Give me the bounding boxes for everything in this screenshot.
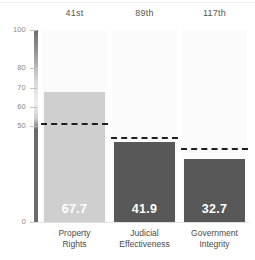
bar-judicial-effectiveness[interactable]: 41.9 (114, 142, 175, 222)
y-tick-mark-70 (30, 88, 37, 89)
category-label-government-integrity: Government Integrity (174, 228, 255, 249)
y-tick-label-80: 80 (0, 64, 26, 72)
y-tick-label-50: 50 (0, 122, 26, 130)
reference-line-judicial-effectiveness (111, 137, 178, 139)
bar-government-integrity[interactable]: 32.7 (184, 159, 245, 222)
y-tick-label-100: 100 (0, 26, 26, 34)
y-tick-mark-100 (30, 30, 37, 31)
bar-value-property-rights: 67.7 (44, 202, 105, 216)
bar-value-government-integrity: 32.7 (184, 202, 245, 216)
category-label-judicial-effectiveness: Judicial Effectiveness (104, 228, 185, 249)
plot-area: 100807060500 67.7 41.9 32.7 Property Rig… (0, 0, 255, 260)
y-tick-mark-60 (30, 107, 37, 108)
bar-property-rights[interactable]: 67.7 (44, 92, 105, 222)
y-tick-label-70: 70 (0, 84, 26, 92)
y-tick-label-0: 0 (0, 218, 26, 226)
y-tick-mark-50 (30, 126, 37, 127)
reference-line-government-integrity (181, 148, 248, 150)
bar-chart: 41st 89th 117th 100807060500 67.7 41.9 3… (0, 0, 255, 260)
reference-line-property-rights (41, 123, 108, 125)
y-tick-mark-80 (30, 68, 37, 69)
y-tick-label-60: 60 (0, 103, 26, 111)
category-label-property-rights: Property Rights (34, 228, 115, 249)
bar-value-judicial-effectiveness: 41.9 (114, 202, 175, 216)
x-axis-baseline (34, 222, 249, 223)
